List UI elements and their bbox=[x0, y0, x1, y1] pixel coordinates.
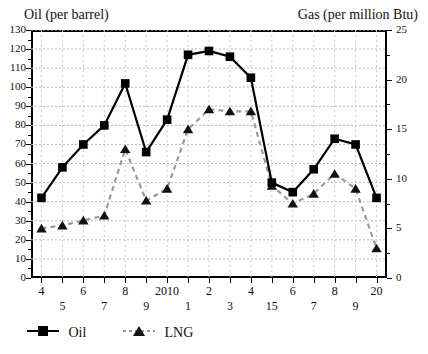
y-axis-left-minor-tick bbox=[28, 173, 31, 174]
lng-series-marker-icon bbox=[122, 325, 156, 341]
y-axis-left-tick-label: 90 bbox=[0, 99, 26, 111]
x-axis-tick bbox=[83, 278, 84, 283]
y-axis-left-tick-label: 40 bbox=[0, 195, 26, 207]
x-axis-tick-label: 6 bbox=[68, 284, 98, 299]
oil-series-marker-icon bbox=[26, 325, 60, 341]
y-axis-right-tick-label: 15 bbox=[396, 122, 422, 134]
x-axis-tick-label: 2010 bbox=[152, 284, 182, 299]
y-axis-right-tick-label: 25 bbox=[396, 23, 422, 35]
y-axis-left-minor-tick bbox=[28, 268, 31, 269]
y-axis-right-minor-tick bbox=[387, 154, 390, 155]
x-axis-tick bbox=[251, 278, 252, 283]
x-axis-tick bbox=[230, 278, 231, 283]
y-axis-right-tick bbox=[387, 30, 392, 31]
x-axis-tick-label: 4 bbox=[26, 284, 56, 299]
y-axis-left-tick-label: 20 bbox=[0, 233, 26, 245]
y-axis-left-tick-label: 10 bbox=[0, 252, 26, 264]
y-axis-left-minor-tick bbox=[28, 97, 31, 98]
x-axis-tick-label: 2 bbox=[194, 284, 224, 299]
y-axis-left-tick-label: 110 bbox=[0, 61, 26, 73]
y-axis-left-tick bbox=[26, 144, 31, 145]
chart-canvas bbox=[31, 30, 387, 278]
y-axis-right-tick bbox=[387, 80, 392, 81]
legend-item-oil: Oil bbox=[26, 324, 86, 341]
y-axis-left-minor-tick bbox=[28, 249, 31, 250]
y-axis-left-tick-label: 100 bbox=[0, 80, 26, 92]
x-axis-tick bbox=[104, 278, 105, 283]
y-axis-left-tick-label: 70 bbox=[0, 137, 26, 149]
y-axis-left-minor-tick bbox=[28, 211, 31, 212]
x-axis-tick-label: 8 bbox=[110, 284, 140, 299]
x-axis-tick bbox=[62, 278, 63, 283]
x-axis-tick-label: 9 bbox=[131, 299, 161, 314]
x-axis-tick bbox=[272, 278, 273, 283]
x-axis-tick bbox=[188, 278, 189, 283]
y-axis-left-minor-tick bbox=[28, 192, 31, 193]
y-axis-right-tick bbox=[387, 278, 392, 279]
y-axis-left-minor-tick bbox=[28, 116, 31, 117]
chart-legend: Oil LNG bbox=[0, 322, 428, 348]
y-axis-left-tick bbox=[26, 183, 31, 184]
x-axis-tick bbox=[335, 278, 336, 283]
y-axis-left-minor-tick bbox=[28, 230, 31, 231]
x-axis-tick bbox=[293, 278, 294, 283]
y-axis-left-tick-label: 0 bbox=[0, 271, 26, 283]
y-axis-left-minor-tick bbox=[28, 135, 31, 136]
y-axis-left-tick-label: 130 bbox=[0, 23, 26, 35]
y-axis-right-tick bbox=[387, 179, 392, 180]
y-axis-right-minor-tick bbox=[387, 253, 390, 254]
x-axis-tick-label: 3 bbox=[215, 299, 245, 314]
x-axis-tick-label: 6 bbox=[278, 284, 308, 299]
y-axis-right-tick-label: 0 bbox=[396, 271, 422, 283]
x-axis-tick bbox=[377, 278, 378, 283]
y-axis-right-minor-tick bbox=[387, 204, 390, 205]
x-axis-tick-label: 5 bbox=[47, 299, 77, 314]
y-axis-left-tick bbox=[26, 49, 31, 50]
y-axis-left-minor-tick bbox=[28, 40, 31, 41]
x-axis-tick bbox=[209, 278, 210, 283]
y-axis-right-tick bbox=[387, 129, 392, 130]
y-axis-right-tick bbox=[387, 228, 392, 229]
y-axis-left-tick bbox=[26, 125, 31, 126]
y-axis-left-tick-label: 60 bbox=[0, 157, 26, 169]
y-axis-left-tick-label: 50 bbox=[0, 176, 26, 188]
x-axis-tick-label: 7 bbox=[89, 299, 119, 314]
legend-item-lng: LNG bbox=[122, 324, 193, 341]
y-axis-right-tick-label: 5 bbox=[396, 221, 422, 233]
y-axis-left-tick-label: 80 bbox=[0, 118, 26, 130]
x-axis-tick-label: 8 bbox=[320, 284, 350, 299]
y-axis-left-tick bbox=[26, 278, 31, 279]
x-axis-tick bbox=[356, 278, 357, 283]
y-axis-right-tick-label: 10 bbox=[396, 172, 422, 184]
y-axis-left-tick bbox=[26, 221, 31, 222]
y-axis-left-tick bbox=[26, 202, 31, 203]
x-axis-tick-label: 1 bbox=[173, 299, 203, 314]
x-axis-tick-label: 20 bbox=[362, 284, 392, 299]
x-axis-tick bbox=[146, 278, 147, 283]
y-axis-left-tick bbox=[26, 30, 31, 31]
y-axis-left-minor-tick bbox=[28, 78, 31, 79]
chart-container: Oil (per barrel) Gas (per million Btu) O… bbox=[0, 0, 428, 354]
y-axis-left-minor-tick bbox=[28, 59, 31, 60]
y-axis-left-tick bbox=[26, 164, 31, 165]
x-axis-tick-label: 15 bbox=[257, 299, 287, 314]
y-axis-left-tick bbox=[26, 106, 31, 107]
x-axis-tick bbox=[314, 278, 315, 283]
y-axis-left-minor-tick bbox=[28, 154, 31, 155]
y-axis-right-minor-tick bbox=[387, 55, 390, 56]
x-axis-tick-label: 7 bbox=[299, 299, 329, 314]
x-axis-tick-label: 9 bbox=[341, 299, 371, 314]
right-axis-title: Gas (per million Btu) bbox=[298, 7, 418, 23]
y-axis-left-tick bbox=[26, 259, 31, 260]
y-axis-left-tick bbox=[26, 240, 31, 241]
x-axis-tick-label: 4 bbox=[236, 284, 266, 299]
legend-label-oil: Oil bbox=[69, 325, 87, 340]
y-axis-left-tick bbox=[26, 87, 31, 88]
x-axis-tick bbox=[41, 278, 42, 283]
left-axis-title: Oil (per barrel) bbox=[24, 7, 109, 23]
y-axis-right-tick-label: 20 bbox=[396, 73, 422, 85]
y-axis-right-minor-tick bbox=[387, 104, 390, 105]
x-axis-tick bbox=[167, 278, 168, 283]
y-axis-left-tick bbox=[26, 68, 31, 69]
y-axis-left-tick-label: 120 bbox=[0, 42, 26, 54]
